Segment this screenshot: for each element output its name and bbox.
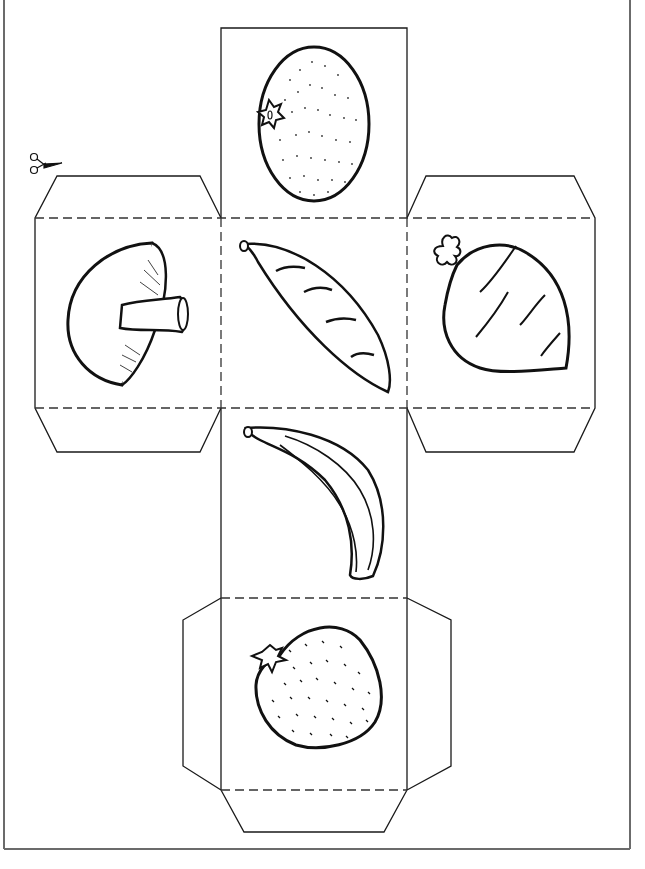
cube-net-worksheet: [0, 0, 645, 869]
banana-icon: [244, 427, 383, 579]
strawberry-icon: [252, 627, 381, 747]
pea-pod-icon: [240, 241, 390, 392]
orange-icon: [258, 47, 369, 201]
bottom-tab-outline: [221, 790, 407, 832]
mushroom-icon: [68, 243, 188, 385]
turnip-icon: [434, 236, 569, 372]
scissors-icon: [31, 154, 63, 174]
